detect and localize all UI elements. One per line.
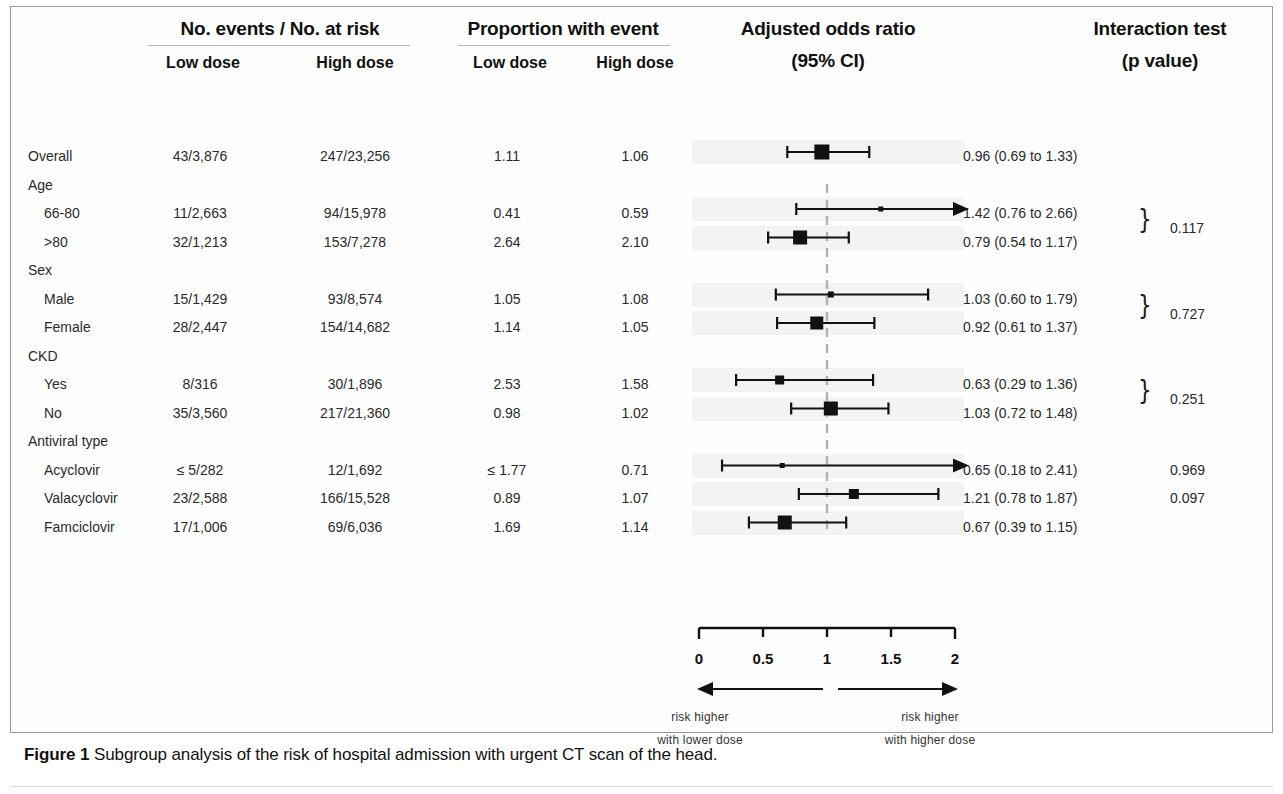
proportion-high-male: 1.08 [580,292,690,306]
proportion-low-male: 1.05 [452,292,562,306]
events-high-acyclovir: 12/1,692 [290,463,420,477]
figure-caption: Figure 1 Subgroup analysis of the risk o… [24,745,1254,765]
group-label-sex: Sex [28,263,218,277]
events-low-valacyclovir: 23/2,588 [140,491,260,505]
header-proportion-high-dose: High dose [580,54,690,72]
interaction-brace-1: } [1138,205,1152,232]
odds-ratio-text-yes: 0.63 (0.29 to 1.36) [963,377,1163,391]
header-events-low-dose: Low dose [148,54,258,72]
odds-ratio-text-famciclovir: 0.67 (0.39 to 1.15) [963,520,1163,534]
odds-ratio-text-female: 0.92 (0.61 to 1.37) [963,320,1163,334]
header-interaction-test: Interaction test [1060,18,1260,40]
plot-band-female [692,311,964,335]
header-events-group: No. events / No. at risk [120,18,440,40]
events-low-acyclovir: ≤ 5/282 [140,463,260,477]
plot-band-yes [692,368,964,392]
header-proportion-group: Proportion with event [438,18,688,40]
header-odds-ratio-ci: (95% CI) [700,50,956,72]
proportion-low-no: 0.98 [452,406,562,420]
events-low-female: 28/2,447 [140,320,260,334]
events-low-66-80: 11/2,663 [140,206,260,220]
odds-ratio-text-66-80: 1.42 (0.76 to 2.66) [963,206,1163,220]
plot-band-acyclovir [692,454,964,478]
plot-band-80 [692,226,964,250]
proportion-low-famciclovir: 1.69 [452,520,562,534]
events-high-overall: 247/23,256 [290,149,420,163]
events-high-yes: 30/1,896 [290,377,420,391]
right-arrow-label-line1: risk higher [830,710,1030,724]
proportion-low-overall: 1.11 [452,149,562,163]
figure-page: No. events / No. at risk Proportion with… [0,0,1283,794]
proportion-high-overall: 1.06 [580,149,690,163]
proportion-low-80: 2.64 [452,235,562,249]
proportion-low-valacyclovir: 0.89 [452,491,562,505]
group-label-ckd: CKD [28,349,218,363]
header-interaction-pvalue: (p value) [1060,50,1260,72]
left-arrow-label-line1: risk higher [600,710,800,724]
plot-band-famciclovir [692,511,964,535]
proportion-high-yes: 1.58 [580,377,690,391]
odds-ratio-text-acyclovir: 0.65 (0.18 to 2.41) [963,463,1163,477]
group-label-antiviral-type: Antiviral type [28,434,218,448]
header-odds-ratio-group: Adjusted odds ratio [700,18,956,40]
plot-band-overall [692,140,964,164]
proportion-high-80: 2.10 [580,235,690,249]
interaction-brace-2: } [1138,291,1152,318]
events-high-no: 217/21,360 [290,406,420,420]
header-events-high-dose: High dose [300,54,410,72]
proportion-low-acyclovir: ≤ 1.77 [452,463,562,477]
events-high-male: 93/8,574 [290,292,420,306]
interaction-pvalue-group-3: 0.251 [1170,392,1260,406]
plot-band-66-80 [692,197,964,221]
plot-band-no [692,397,964,421]
proportion-low-66-80: 0.41 [452,206,562,220]
caption-figure-number: Figure 1 [24,745,89,764]
events-high-80: 153/7,278 [290,235,420,249]
odds-ratio-text-no: 1.03 (0.72 to 1.48) [963,406,1163,420]
proportion-high-acyclovir: 0.71 [580,463,690,477]
header-proportion-rule [458,45,670,46]
plot-band-male [692,283,964,307]
events-high-66-80: 94/15,978 [290,206,420,220]
events-low-male: 15/1,429 [140,292,260,306]
forest-plot-container: No. events / No. at risk Proportion with… [0,0,1283,740]
proportion-high-famciclovir: 1.14 [580,520,690,534]
events-high-female: 154/14,682 [290,320,420,334]
left-direction-arrow-head [697,682,713,696]
right-direction-arrow-head [942,682,958,696]
interaction-pvalue-valacyclovir: 0.097 [1170,491,1260,505]
odds-ratio-text-valacyclovir: 1.21 (0.78 to 1.87) [963,491,1163,505]
odds-ratio-text-overall: 0.96 (0.69 to 1.33) [963,149,1163,163]
page-bottom-rule [10,786,1273,787]
proportion-high-no: 1.02 [580,406,690,420]
interaction-brace-3: } [1138,376,1152,403]
events-low-famciclovir: 17/1,006 [140,520,260,534]
proportion-high-female: 1.05 [580,320,690,334]
proportion-low-yes: 2.53 [452,377,562,391]
events-low-no: 35/3,560 [140,406,260,420]
proportion-high-66-80: 0.59 [580,206,690,220]
events-high-famciclovir: 69/6,036 [290,520,420,534]
caption-body: Subgroup analysis of the risk of hospita… [94,745,717,764]
interaction-pvalue-group-1: 0.117 [1170,221,1260,235]
plot-band-valacyclovir [692,482,964,506]
proportion-high-valacyclovir: 1.07 [580,491,690,505]
group-label-age: Age [28,178,218,192]
proportion-low-female: 1.14 [452,320,562,334]
forest-plot-svg [0,0,1283,740]
header-proportion-low-dose: Low dose [455,54,565,72]
events-low-overall: 43/3,876 [140,149,260,163]
interaction-pvalue-group-2: 0.727 [1170,307,1260,321]
events-low-yes: 8/316 [140,377,260,391]
interaction-pvalue-acyclovir: 0.969 [1170,463,1260,477]
header-events-rule [148,45,410,46]
odds-ratio-text-male: 1.03 (0.60 to 1.79) [963,292,1163,306]
events-low-80: 32/1,213 [140,235,260,249]
axis-tick-label-2: 2 [915,650,995,667]
odds-ratio-text-80: 0.79 (0.54 to 1.17) [963,235,1163,249]
events-high-valacyclovir: 166/15,528 [290,491,420,505]
